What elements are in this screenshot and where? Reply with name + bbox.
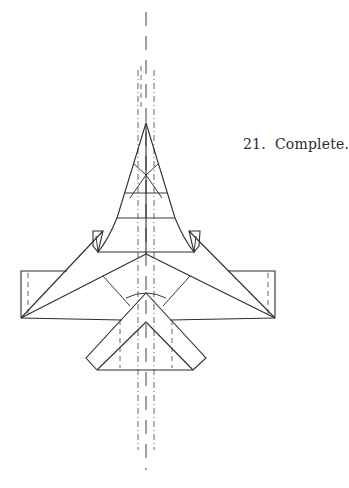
canard-right [189, 231, 200, 252]
wing-left [21, 231, 146, 318]
step-caption: 21.Complete. [243, 136, 349, 152]
nose [117, 123, 175, 254]
canard-left [93, 231, 103, 252]
wing-trailing-edge [21, 318, 275, 320]
step-number: 21. [243, 136, 266, 152]
wing-right [146, 231, 275, 318]
step-label: Complete. [275, 136, 349, 152]
